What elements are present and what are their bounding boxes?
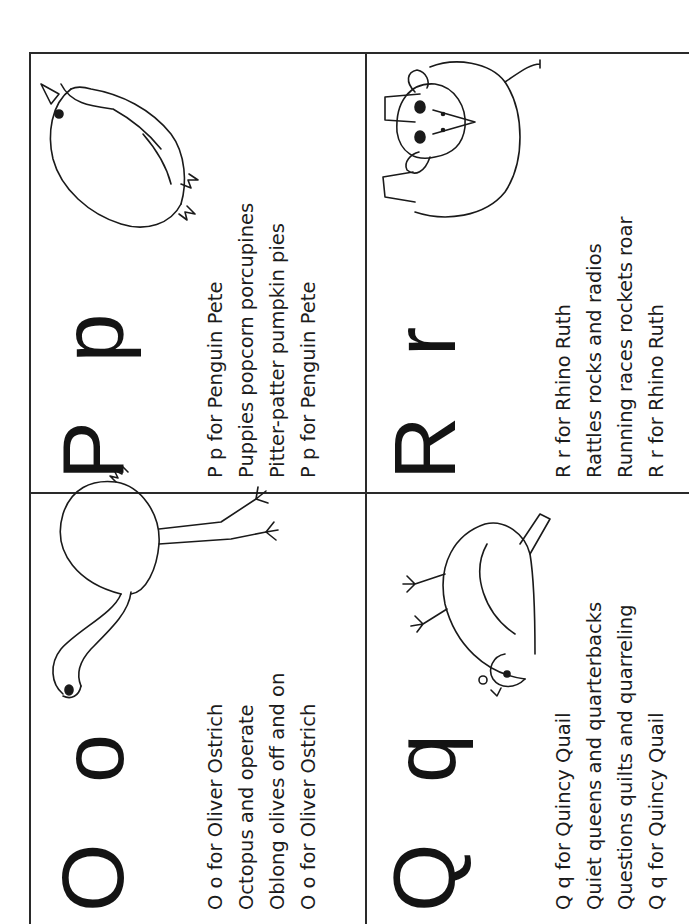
- rhyme-line: O o for Oliver Ostrich: [293, 673, 324, 910]
- rhyme-line: Questions quilts and quarreling: [610, 602, 641, 910]
- ostrich-illustration: [31, 504, 291, 704]
- rhino-illustration: [375, 42, 555, 242]
- rhyme-text-r: R r for Rhino Ruth Rattles rocks and rad…: [548, 217, 672, 478]
- rhyme-line: O o for Oliver Ostrich: [200, 673, 231, 910]
- cell-r-rhino-ruth: R r R r for Rhino Ruth Rattles rocks and…: [367, 54, 689, 492]
- quail-illustration: [375, 494, 555, 694]
- big-letters-p: P p: [49, 296, 137, 481]
- cell-p-penguin-pete: P p P p for Penguin Pete Puppies popcorn…: [31, 54, 365, 492]
- rhyme-text-q: Q q for Quincy Quail Quiet queens and qu…: [548, 602, 672, 910]
- rhyme-line: Oblong olives off and on: [262, 673, 293, 910]
- penguin-illustration: [31, 74, 201, 244]
- rhyme-line: Octopus and operate: [231, 673, 262, 910]
- rhyme-line: Rattles rocks and radios: [579, 217, 610, 478]
- rhyme-line: P p for Penguin Pete: [293, 203, 324, 478]
- rhyme-line: Puppies popcorn porcupines: [231, 203, 262, 478]
- rhyme-line: Quiet queens and quarterbacks: [579, 602, 610, 910]
- rhyme-line: Running races rockets roar: [610, 217, 641, 478]
- rhyme-line: P p for Penguin Pete: [200, 203, 231, 478]
- rhyme-text-o: O o for Oliver Ostrich Octopus and opera…: [200, 673, 324, 910]
- alphabet-worksheet: O o O o for Oliver Ostrich Octopus and o…: [0, 0, 689, 924]
- big-letters-r: R r: [381, 309, 469, 480]
- rhyme-text-p: P p for Penguin Pete Puppies popcorn por…: [200, 203, 324, 478]
- big-letters-q: Q q: [381, 716, 469, 912]
- rhyme-line: Q q for Quincy Quail: [641, 602, 672, 910]
- big-letters-o: O o: [49, 716, 137, 912]
- rhyme-line: R r for Rhino Ruth: [548, 217, 579, 478]
- rhyme-line: Pitter-patter pumpkin pies: [262, 203, 293, 478]
- cell-o-oliver-ostrich: O o O o for Oliver Ostrich Octopus and o…: [31, 494, 365, 924]
- rhyme-line: R r for Rhino Ruth: [641, 217, 672, 478]
- cell-q-quincy-quail: Q q Q q for Quincy Quail Quiet queens an…: [367, 494, 689, 924]
